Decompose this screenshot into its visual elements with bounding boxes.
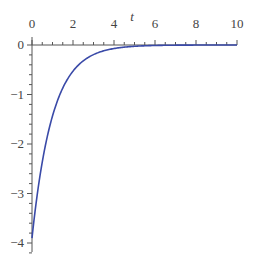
x-tick-label: 10 (231, 16, 244, 31)
x-tick-label: 4 (111, 16, 118, 31)
line-chart: 0246810 0−1−2−3−4 t (0, 0, 254, 265)
data-curve (32, 45, 237, 238)
axes (32, 37, 237, 252)
y-tick-label: −2 (10, 136, 24, 151)
y-axis-ticks: 0−1−2−3−4 (10, 37, 32, 253)
x-tick-label: 2 (70, 16, 77, 31)
x-tick-label: 8 (193, 16, 200, 31)
x-tick-label: 0 (29, 16, 36, 31)
x-axis-title: t (130, 9, 134, 24)
y-tick-label: −4 (10, 235, 24, 250)
y-tick-label: 0 (18, 37, 25, 52)
x-axis-ticks: 0246810 (29, 16, 244, 45)
x-tick-label: 6 (152, 16, 159, 31)
y-tick-label: −1 (10, 87, 24, 102)
y-tick-label: −3 (10, 186, 24, 201)
